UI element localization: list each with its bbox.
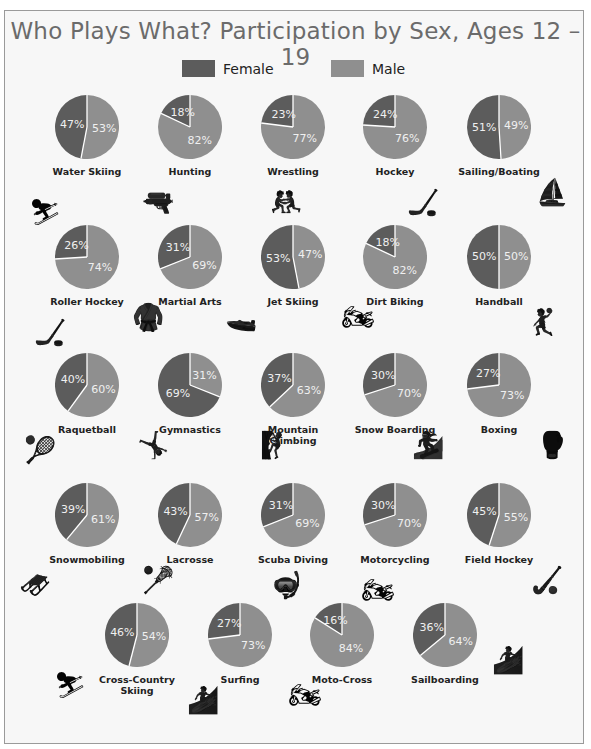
female-percent: 36% [420,621,444,634]
snowboarder-icon: 🏂 [412,430,444,460]
scuba-diver-icon: 🤿 [270,570,302,600]
pie-chart [310,603,374,667]
surfboard-icon: 🏄 [187,685,219,715]
female-percent: 53% [266,252,290,265]
male-percent: 74% [88,261,112,274]
sport-label: Lacrosse [140,554,240,565]
female-percent: 24% [373,108,397,121]
climber-icon: 🧗 [260,430,292,460]
female-percent: 27% [217,617,241,630]
sport-label: Field Hockey [449,554,549,565]
boxer-icon: 🥊 [536,430,568,460]
female-percent: 51% [472,121,496,134]
male-percent: 73% [241,639,265,652]
male-percent: 49% [504,119,528,132]
sport-label: Cross-Country Skiing [87,674,187,696]
male-percent: 53% [92,122,116,135]
legend-label-male: Male [372,61,405,77]
motorcycle-icon: 🏍 [362,575,395,605]
sport-label: Raquetball [37,424,137,435]
male-percent: 57% [195,511,219,524]
pie-chart [55,225,119,289]
snowmobile-icon: 🛷 [19,570,51,600]
sailboat-icon: ⛵ [536,177,568,207]
female-swatch [182,60,215,77]
male-percent: 84% [339,642,363,655]
pie-chart [158,225,222,289]
male-percent: 73% [500,389,524,402]
sport-label: Wrestling [243,166,343,177]
female-percent: 23% [271,108,295,121]
sport-label: Hunting [140,166,240,177]
pie-chart [363,483,427,547]
jet-ski-icon: 🚤 [225,302,257,332]
female-percent: 30% [371,499,395,512]
sport-label: Mountain Climbing [243,424,343,446]
legend-item-male: Male [331,60,405,77]
water-skier-icon: ⛷ [29,197,62,227]
hockey-player-icon: 🏒 [407,187,439,217]
pie-chart [261,483,325,547]
pie-chart [158,353,222,417]
female-percent: 39% [61,503,85,516]
sport-label: Surfing [190,674,290,685]
male-percent: 50% [504,250,528,263]
legend: Female Male [0,60,591,80]
motocross-bike-icon: 🏍 [289,680,322,710]
field-hockey-stick-icon: 🏑 [531,565,563,595]
sport-label: Hockey [345,166,445,177]
windsurfer-icon: 🏄 [492,645,524,675]
sport-label: Snowmobiling [37,554,137,565]
male-percent: 55% [504,511,528,524]
female-percent: 26% [64,239,88,252]
pie-chart [261,95,325,159]
handball-player-icon: 🤾 [526,307,558,337]
sport-label: Motorcycling [345,554,445,565]
male-percent: 60% [91,383,115,396]
hockey-stick-puck-icon: 🏒 [34,317,66,347]
male-percent: 54% [142,630,166,643]
female-percent: 46% [110,626,134,639]
male-percent: 82% [188,134,212,147]
male-percent: 70% [397,387,421,400]
female-percent: 45% [472,505,496,518]
female-percent: 31% [166,241,190,254]
legend-label-female: Female [223,61,274,77]
pie-chart [363,225,427,289]
male-percent: 64% [448,635,472,648]
lacrosse-stick-icon: 🥍 [142,565,174,595]
cross-country-skier-icon: ⛷ [54,670,87,700]
sport-label: Sailboarding [395,674,495,685]
male-percent: 69% [192,259,216,272]
male-percent: 76% [395,132,419,145]
female-percent: 31% [269,499,293,512]
female-percent: 18% [375,236,399,249]
female-percent: 16% [323,614,347,627]
male-percent: 70% [397,517,421,530]
sport-label: Water Skiing [37,166,137,177]
martial-arts-kick-icon: 🥋 [132,302,164,332]
sport-label: Scuba Diving [243,554,343,565]
pie-chart [158,95,222,159]
sport-label: Boxing [449,424,549,435]
raquetball-player-icon: 🎾 [24,435,56,465]
gymnast-pommel-icon: 🤸 [137,430,169,460]
pie-chart [208,603,272,667]
male-swatch [331,60,364,77]
pie-chart [363,353,427,417]
female-percent: 69% [166,387,190,400]
legend-item-female: Female [182,60,274,77]
female-percent: 50% [472,250,496,263]
male-percent: 47% [298,248,322,261]
female-percent: 47% [60,118,84,131]
male-percent: 82% [393,264,417,277]
pie-chart [467,353,531,417]
dirt-bike-icon: 🏍 [342,302,375,332]
wrestlers-icon: 🤼 [270,187,302,217]
sport-label: Sailing/Boating [449,166,549,177]
male-percent: 69% [295,517,319,530]
female-percent: 27% [476,367,500,380]
female-percent: 30% [371,369,395,382]
pie-chart [363,95,427,159]
male-percent: 77% [293,132,317,145]
